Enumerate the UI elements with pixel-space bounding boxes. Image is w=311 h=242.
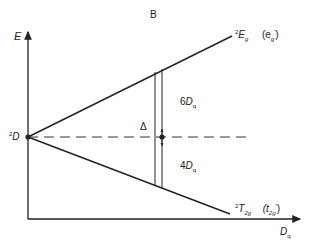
upper-split-label: 6Dq	[180, 97, 196, 107]
diagram-title: B	[150, 10, 157, 20]
origin-term-label: 2D	[9, 132, 20, 142]
barycenter-dot	[159, 134, 164, 139]
x-axis-label: Dq	[280, 227, 291, 237]
origin-dot	[25, 134, 30, 139]
delta-label: Δ	[140, 122, 147, 132]
lower-level-line	[28, 137, 230, 214]
y-axis-label: E	[14, 31, 21, 41]
upper-term-label: 2Eg (eg')	[235, 30, 279, 40]
lower-term-label: 2T2g (t2g')	[235, 204, 280, 214]
lower-split-label: 4Dq	[180, 161, 196, 171]
upper-level-line	[28, 36, 232, 137]
